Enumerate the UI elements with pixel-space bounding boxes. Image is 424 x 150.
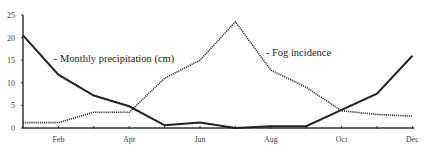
y-tick-label: 25 <box>7 11 15 20</box>
y-axis: 0510152025 <box>7 11 23 133</box>
series-label: - Monthly precipitation (cm) <box>54 53 175 65</box>
series-lines <box>23 22 412 128</box>
y-tick-label: 15 <box>7 56 15 65</box>
x-tick-label: Jun <box>194 135 205 144</box>
annotations: - Monthly precipitation (cm)- Fog incide… <box>54 47 332 66</box>
x-axis: FebAprJunAugOctDec <box>23 126 419 144</box>
line-chart: 0510152025 FebAprJunAugOctDec - Monthly … <box>0 0 424 150</box>
x-tick-label: Apr <box>123 135 136 144</box>
series-line-0 <box>23 35 412 128</box>
y-tick-label: 5 <box>11 101 15 110</box>
x-tick-label: Oct <box>336 135 348 144</box>
series-line-1 <box>23 22 412 123</box>
y-tick-label: 0 <box>11 124 15 133</box>
x-tick-label: Feb <box>52 135 64 144</box>
x-tick-label: Dec <box>406 135 419 144</box>
x-tick-label: Aug <box>264 135 278 144</box>
y-tick-label: 20 <box>7 34 15 43</box>
y-tick-label: 10 <box>7 79 15 88</box>
series-label: - Fog incidence <box>266 47 332 58</box>
